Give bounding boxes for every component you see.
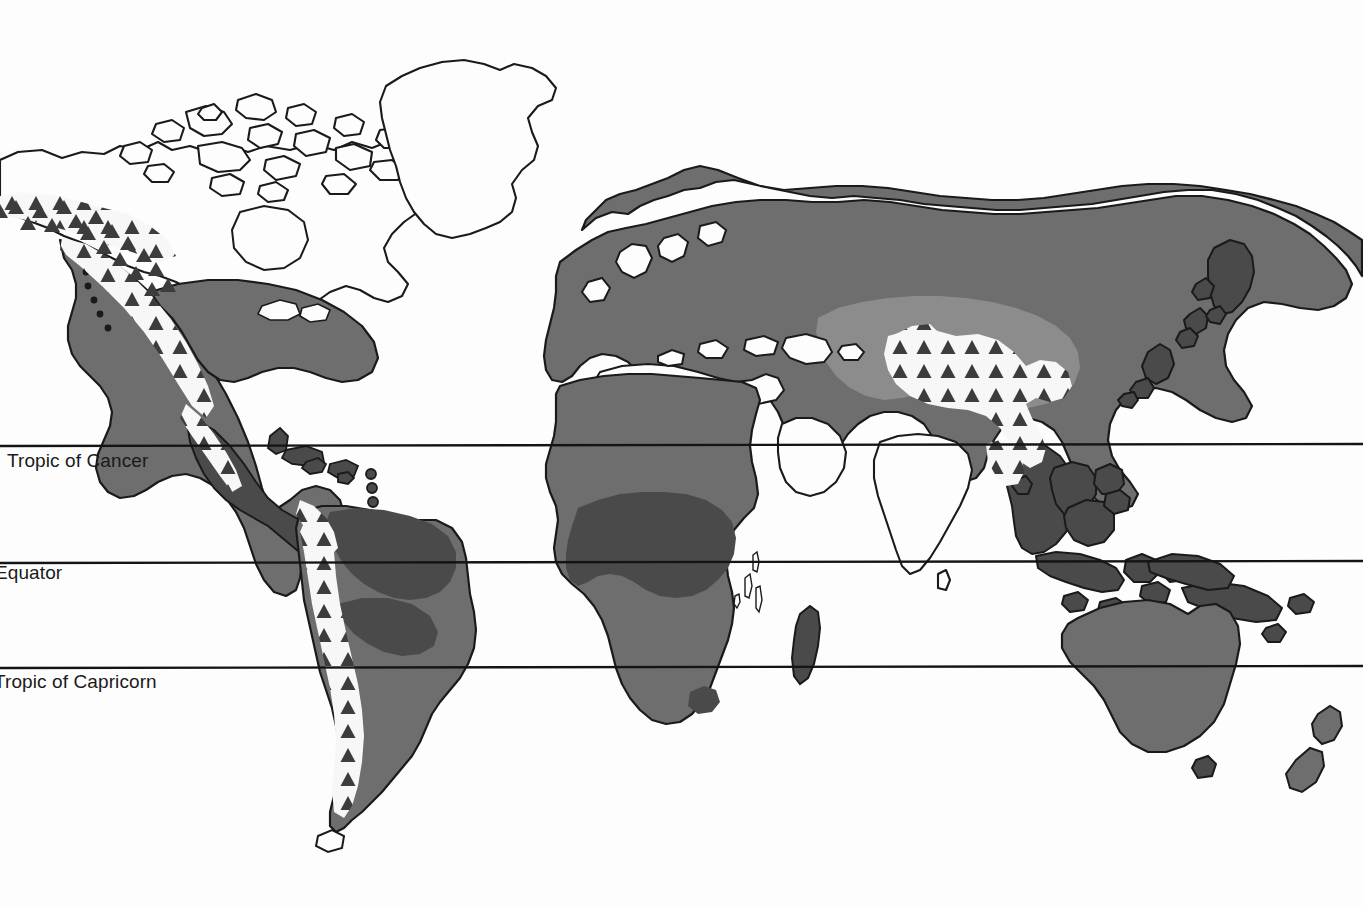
hudson-bay: [232, 206, 308, 270]
map-canvas: [0, 0, 1363, 907]
tropic-of-capricorn-label: Tropic of Capricorn: [0, 672, 157, 691]
world-map: Tropic of Cancer Equator Tropic of Capri…: [0, 0, 1363, 907]
tropic-of-cancer-label: Tropic of Cancer: [7, 451, 148, 470]
tasmania-dark: [1192, 756, 1216, 778]
equator-label: Equator: [0, 563, 62, 582]
